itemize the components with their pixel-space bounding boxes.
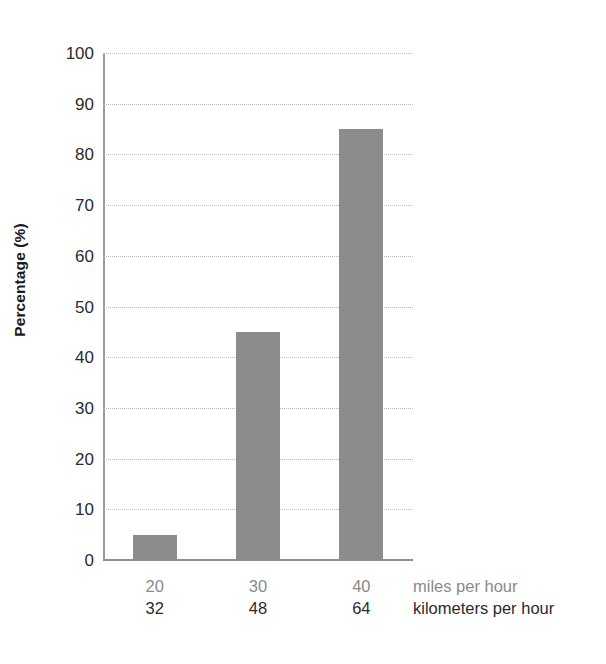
y-axis-title-text: Percentage (%)	[11, 223, 29, 336]
x-axis-row-kilometers: kilometers per hour 324864	[103, 597, 606, 621]
y-axis-tick: 50	[38, 298, 94, 315]
bar	[133, 535, 177, 560]
y-axis-tick: 90	[38, 95, 94, 112]
gridline	[103, 53, 413, 54]
y-axis-tick: 30	[38, 399, 94, 416]
x-axis-row-miles: miles per hour 203040	[103, 575, 606, 599]
y-axis-tick: 40	[38, 349, 94, 366]
x-axis-unit-miles: miles per hour	[413, 575, 518, 597]
y-axis-tick: 10	[38, 501, 94, 518]
x-axis-tick-kilometers: 48	[223, 597, 293, 619]
bar	[236, 332, 280, 560]
bar	[339, 129, 383, 560]
x-axis-tick-kilometers: 64	[326, 597, 396, 619]
x-axis-unit-kilometers: kilometers per hour	[413, 597, 554, 619]
x-axis-tick-miles: 30	[223, 575, 293, 597]
x-axis-tick-miles: 40	[326, 575, 396, 597]
x-axis-tick-miles: 20	[120, 575, 190, 597]
y-axis-tick: 60	[38, 247, 94, 264]
y-axis-title: Percentage (%)	[0, 0, 40, 560]
bar-chart-figure: Percentage (%) 1009080706050403020100 mi…	[0, 0, 606, 664]
x-axis-tick-kilometers: 32	[120, 597, 190, 619]
y-axis-tick: 80	[38, 146, 94, 163]
y-axis-tick: 20	[38, 450, 94, 467]
plot-area	[103, 53, 413, 560]
x-axis-tick-labels: miles per hour 203040 kilometers per hou…	[103, 575, 606, 635]
y-axis-tick: 70	[38, 197, 94, 214]
y-axis-tick: 0	[38, 552, 94, 569]
y-axis-tick: 100	[38, 45, 94, 62]
y-axis-tick-labels: 1009080706050403020100	[38, 0, 94, 664]
gridline	[103, 104, 413, 105]
